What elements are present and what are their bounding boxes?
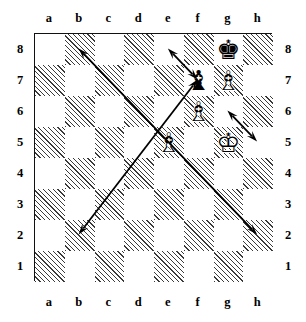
arrow-g6-h5-shaft xyxy=(233,116,252,136)
arrow-h2-b8-shaft xyxy=(84,54,252,229)
chess-diagram: abcdefgh 87654321 87654321 abcdefgh ♚♝♗♗… xyxy=(0,0,306,322)
arrow-b2-f7 xyxy=(79,80,198,235)
arrow-b2-f7-shaft xyxy=(83,85,193,228)
movement-arrows xyxy=(0,0,306,322)
arrow-e8-f7 xyxy=(168,49,198,80)
arrow-g6-h5 xyxy=(227,111,257,142)
arrow-h2-b8 xyxy=(79,49,258,235)
arrow-e8-f7-shaft xyxy=(173,54,192,74)
